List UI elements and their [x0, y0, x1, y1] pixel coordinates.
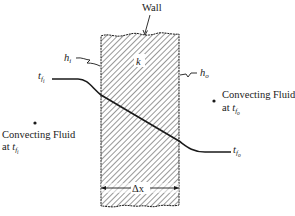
right-fluid-point-icon	[212, 99, 215, 102]
thickness-label: Δx	[132, 183, 145, 194]
wall-label: Wall	[142, 2, 162, 13]
svg-text:at tfo: at tfo	[222, 102, 240, 116]
svg-text:at tfi: at tfi	[2, 141, 19, 155]
outer-coefficient-leader	[180, 73, 197, 77]
svg-text:tfi: tfi	[38, 70, 45, 84]
right-fluid-label: Convecting Fluid	[222, 89, 295, 100]
left-fluid-label: Convecting Fluid	[2, 129, 76, 140]
inner-fluid-temp-label: tfi	[38, 70, 45, 84]
svg-text:ho: ho	[200, 67, 209, 80]
wall-arrow	[145, 15, 150, 33]
left-fluid-point-icon	[33, 121, 36, 124]
outer-coefficient-label: ho	[200, 67, 209, 80]
wall-convection-diagram: Wall k hi ho tfi tfo Convecting Fluid at…	[0, 0, 295, 216]
right-fluid-temp: at tfo	[222, 102, 240, 116]
inner-coefficient-leader	[76, 58, 100, 66]
thickness-dimension: Δx	[101, 182, 179, 194]
inner-coefficient-label: hi	[64, 52, 71, 65]
outer-fluid-temp-label: tfo	[233, 144, 241, 158]
conductivity-label: k	[136, 56, 141, 67]
left-fluid-temp: at tfi	[2, 141, 19, 155]
svg-text:hi: hi	[64, 52, 71, 65]
svg-text:tfo: tfo	[233, 144, 241, 158]
